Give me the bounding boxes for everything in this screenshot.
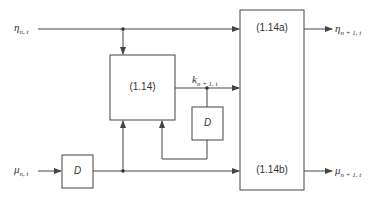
delay-feedback-label: D	[192, 117, 223, 128]
block-1-14a-b	[240, 10, 304, 190]
block-1-14-label: (1.14)	[110, 81, 175, 92]
k-output-label: kn + 1, t	[192, 73, 218, 88]
block-diagram	[0, 0, 379, 201]
delay-input-label: D	[62, 165, 93, 176]
junction-dot	[121, 27, 125, 31]
mu-input-label: μn, t	[14, 163, 28, 178]
eta-output-label: ηn + 1, t	[335, 22, 361, 37]
eta-input-label: ηn, t	[14, 21, 28, 36]
block-1-14a-label: (1.14a)	[240, 22, 304, 33]
mu-output-label: μn + 1, t	[335, 164, 361, 179]
block-1-14b-label: (1.14b)	[240, 164, 304, 175]
junction-dot	[121, 169, 125, 173]
